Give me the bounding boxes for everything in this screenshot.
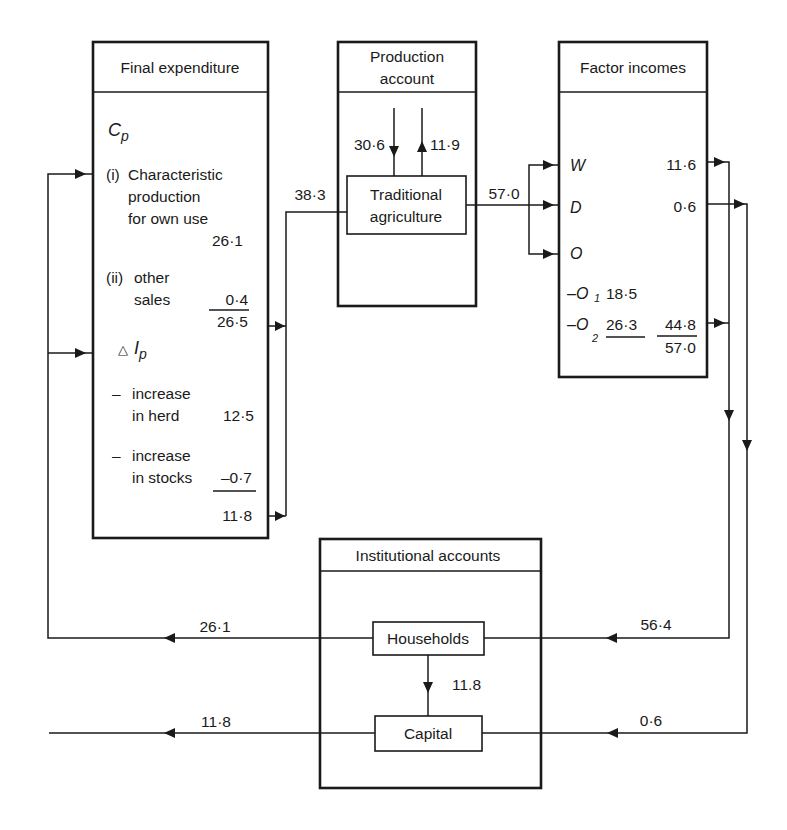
stocks-value: –0·7 <box>221 469 252 486</box>
arrow-left-icon <box>164 728 175 738</box>
flow-capital-out: 11·8 <box>49 713 375 738</box>
institutional-accounts-title: Institutional accounts <box>356 547 501 564</box>
item-ii-prefix: (ii) <box>106 269 123 286</box>
flow-factor-to-capital: 0·6 <box>482 199 752 738</box>
o2-subscript: 2 <box>591 332 598 344</box>
w-label: W <box>570 157 587 174</box>
arrow-down-icon <box>423 682 433 693</box>
o1-label: –O <box>566 285 588 302</box>
inflow-value: 30·6 <box>354 136 385 153</box>
arrow-left-icon <box>606 633 617 643</box>
item-i-line3: for own use <box>128 210 208 227</box>
arrow-right-icon <box>275 321 285 331</box>
production-account-title-line1: Production <box>370 48 444 65</box>
flow-fe-to-production: 38·3 <box>268 186 347 521</box>
o2-label: –O <box>566 316 588 333</box>
herd-value: 12·5 <box>223 407 254 424</box>
stocks-dash: – <box>112 447 121 464</box>
factor-incomes-account: Factor incomes W 11·6 D 0·6 O –O 1 18·5 … <box>559 42 707 377</box>
item-ii-line2: sales <box>134 291 170 308</box>
arrow-right-icon <box>714 318 725 328</box>
arrow-left-icon <box>164 633 175 643</box>
capital-label: Capital <box>404 725 452 742</box>
arrow-right-icon <box>75 169 86 179</box>
flow-households-to-fe: 26·1 <box>48 169 373 643</box>
d-value: 0·6 <box>674 198 696 215</box>
fe-to-production-value: 38·3 <box>294 186 325 203</box>
factor-to-households-value: 56·4 <box>640 616 671 633</box>
item-i-line2: production <box>128 188 200 205</box>
item-i-value: 26·1 <box>212 232 243 249</box>
households-to-capital-value: 11.8 <box>452 676 481 693</box>
cp-subscript: p <box>120 128 129 144</box>
w-value: 11·6 <box>666 156 696 173</box>
social-accounting-flow-diagram: Final expenditure C p (i) Characteristic… <box>0 0 787 830</box>
item-i-line1: Characteristic <box>128 166 223 183</box>
o1-value: 18·5 <box>606 285 637 302</box>
production-account: Production account 30·6 11·9 Traditional… <box>338 42 476 306</box>
o-label: O <box>570 245 582 262</box>
arrow-down-icon <box>724 410 734 421</box>
production-account-title-line2: account <box>380 70 435 87</box>
o1-subscript: 1 <box>594 292 600 304</box>
capital-out-value: 11·8 <box>201 713 231 730</box>
arrow-up-icon <box>417 141 427 152</box>
herd-dash: – <box>112 385 121 402</box>
cp-label: C <box>108 120 122 140</box>
final-expenditure-account: Final expenditure C p (i) Characteristic… <box>93 42 268 538</box>
d-label: D <box>570 199 582 216</box>
delta-symbol: △ <box>118 342 128 357</box>
cp-total: 26·5 <box>217 313 248 330</box>
grand-total: 57·0 <box>665 339 696 356</box>
factor-incomes-title: Factor incomes <box>580 59 686 76</box>
flow-production-to-factor: 57·0 <box>466 160 559 259</box>
factor-to-capital-value: 0·6 <box>640 712 662 729</box>
ip-subscript: p <box>138 346 147 362</box>
arrow-down-icon <box>389 146 399 157</box>
traditional-agriculture-box <box>347 176 466 234</box>
arrow-right-icon <box>543 200 554 210</box>
arrow-right-icon <box>714 157 725 167</box>
arrow-right-icon <box>275 511 285 521</box>
o2-value: 26·3 <box>606 316 637 333</box>
households-to-fe-value: 26·1 <box>199 618 230 635</box>
traditional-agriculture-line1: Traditional <box>370 186 442 203</box>
flow-factor-to-households: 56·4 <box>484 157 734 643</box>
arrow-right-icon <box>734 199 745 209</box>
o-total: 44·8 <box>665 316 696 333</box>
herd-line1: increase <box>132 385 191 402</box>
production-to-factor-value: 57·0 <box>488 185 519 202</box>
arrow-right-icon <box>543 160 554 170</box>
arrow-down-icon <box>742 440 752 451</box>
arrow-left-icon <box>607 728 618 738</box>
institutional-accounts: Institutional accounts Households 11.8 C… <box>320 539 541 788</box>
arrow-right-icon <box>75 348 86 358</box>
outflow-value: 11·9 <box>430 136 460 153</box>
herd-line2: in herd <box>132 407 179 424</box>
ip-total: 11·8 <box>222 507 252 524</box>
final-expenditure-title: Final expenditure <box>121 59 240 76</box>
stocks-line1: increase <box>132 447 191 464</box>
item-i-prefix: (i) <box>106 166 120 183</box>
traditional-agriculture-line2: agriculture <box>370 208 442 225</box>
item-ii-line1: other <box>134 269 169 286</box>
households-label: Households <box>387 630 469 647</box>
stocks-line2: in stocks <box>132 469 193 486</box>
arrow-right-icon <box>543 249 554 259</box>
item-ii-value: 0·4 <box>226 291 249 308</box>
